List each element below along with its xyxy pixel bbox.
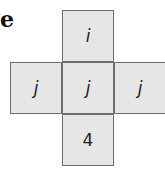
face-center: j (62, 62, 114, 114)
face-left: j (10, 62, 62, 114)
face-top: i (62, 10, 114, 62)
face-bottom: 4 (62, 114, 114, 166)
part-label: e (0, 8, 14, 30)
face-right: j (114, 62, 165, 114)
